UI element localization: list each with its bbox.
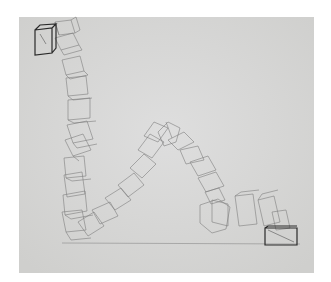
artwork-frame [0, 0, 331, 282]
cube-drawing [0, 0, 331, 282]
